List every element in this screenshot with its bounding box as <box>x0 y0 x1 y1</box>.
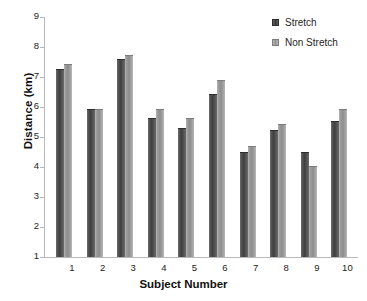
y-tick-mark <box>40 17 44 18</box>
bar-stretch <box>270 130 278 258</box>
legend-item: Stretch <box>272 17 338 28</box>
y-tick-mark <box>40 227 44 228</box>
bar-non-stretch <box>186 118 194 257</box>
bar-non-stretch <box>156 109 164 258</box>
x-tick-label: 4 <box>149 262 179 273</box>
y-tick-label: 1 <box>34 250 39 261</box>
bar-stretch <box>301 152 309 257</box>
x-tick-label: 8 <box>271 262 301 273</box>
bar-non-stretch <box>248 146 256 257</box>
legend-label: Stretch <box>285 17 317 28</box>
legend-label: Non Stretch <box>285 37 338 48</box>
bar-group <box>56 17 72 257</box>
x-tick-label: 9 <box>302 262 332 273</box>
y-tick-label: 5 <box>34 130 39 141</box>
y-tick-mark <box>40 197 44 198</box>
y-tick-mark <box>40 137 44 138</box>
bar-group <box>117 17 133 257</box>
bar-non-stretch <box>125 55 133 257</box>
y-tick-mark <box>40 107 44 108</box>
x-axis-line <box>44 257 358 258</box>
bar-non-stretch <box>217 80 225 257</box>
y-tick-label: 6 <box>34 100 39 111</box>
x-tick-label: 3 <box>118 262 148 273</box>
bar-stretch <box>87 109 95 258</box>
bar-non-stretch <box>95 109 103 258</box>
y-axis-line <box>44 17 45 258</box>
y-tick-label: 7 <box>34 70 39 81</box>
legend-item: Non Stretch <box>272 37 338 48</box>
bar-stretch <box>117 59 125 257</box>
y-tick-label: 9 <box>34 10 39 21</box>
bar-group <box>209 17 225 257</box>
bar-non-stretch <box>278 124 286 258</box>
y-tick-label: 4 <box>34 160 39 171</box>
bar-non-stretch <box>64 64 72 258</box>
bar-group <box>240 17 256 257</box>
y-tick-mark <box>40 47 44 48</box>
x-tick-label: 7 <box>241 262 271 273</box>
bar-stretch <box>178 128 186 257</box>
bar-non-stretch <box>309 166 317 258</box>
bar-group <box>178 17 194 257</box>
y-tick-label: 2 <box>34 220 39 231</box>
y-tick-label: 8 <box>34 40 39 51</box>
chart-legend: StretchNon Stretch <box>272 17 338 57</box>
bar-stretch <box>148 118 156 258</box>
bar-group <box>87 17 103 257</box>
x-tick-label: 2 <box>88 262 118 273</box>
bar-non-stretch <box>339 109 347 258</box>
y-tick-label: 3 <box>34 190 39 201</box>
x-tick-label: 10 <box>332 262 362 273</box>
bar-group <box>148 17 164 257</box>
bar-stretch <box>240 152 248 257</box>
bar-stretch <box>56 69 64 257</box>
y-tick-mark <box>40 77 44 78</box>
bar-stretch <box>331 121 339 258</box>
legend-swatch-non-stretch <box>272 39 279 46</box>
bar-chart: Distance (km) 987654321 12345678910 Subj… <box>0 0 367 301</box>
x-tick-label: 5 <box>179 262 209 273</box>
x-tick-label: 6 <box>210 262 240 273</box>
x-axis-title: Subject Number <box>0 278 367 290</box>
bar-stretch <box>209 94 217 258</box>
y-tick-mark <box>40 257 44 258</box>
y-tick-mark <box>40 167 44 168</box>
legend-swatch-stretch <box>272 19 279 26</box>
y-axis-title: Distance (km) <box>22 31 34 191</box>
x-tick-label: 1 <box>57 262 87 273</box>
